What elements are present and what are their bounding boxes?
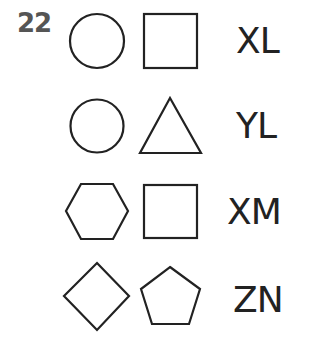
code-label-yl: YL [236, 106, 276, 146]
diamond-shape [64, 263, 129, 330]
circle-shape [70, 14, 124, 68]
triangle-shape [140, 98, 201, 153]
code-label-zn: ZN [233, 280, 283, 320]
pentagon-shape [141, 267, 200, 324]
code-label-xm: XM [227, 192, 281, 232]
code-label-xl: XL [236, 21, 279, 61]
square-shape [144, 14, 197, 68]
circle-shape [71, 100, 124, 153]
square-shape [144, 185, 197, 238]
hexagon-shape [66, 184, 128, 239]
